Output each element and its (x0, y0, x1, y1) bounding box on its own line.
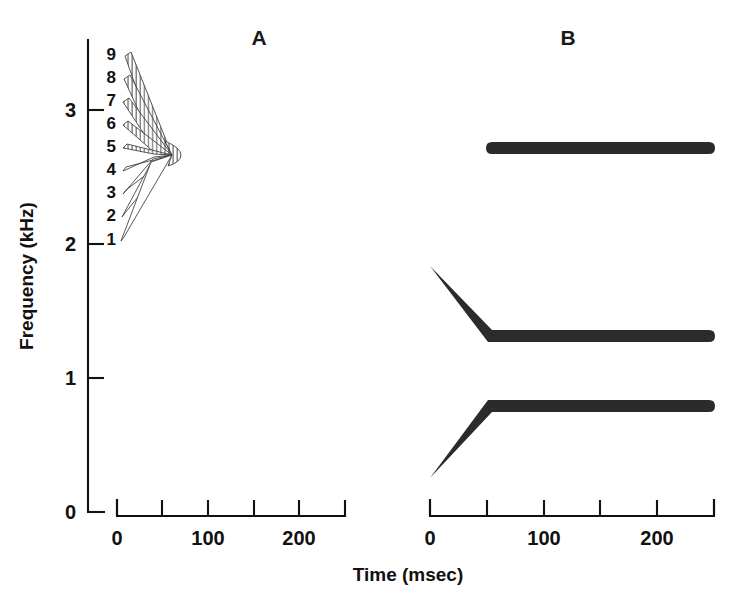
panel-b-x-ticks (430, 500, 714, 516)
y-tick-label-1: 1 (65, 367, 76, 389)
panel-a-fan: 9 8 7 6 5 4 3 2 1 (107, 45, 181, 249)
y-tick-label-3: 3 (65, 99, 76, 121)
panel-label-a: A (251, 26, 266, 49)
panel-b-x-label-0: 0 (424, 527, 435, 549)
formant-f3 (486, 142, 715, 154)
panel-b-x-label-100: 100 (527, 527, 560, 549)
panel-b-x-label-200: 200 (640, 527, 673, 549)
panel-a-x-axis-line (117, 500, 345, 516)
panel-a-x-ticks (117, 500, 345, 516)
y-tick-label-0: 0 (65, 501, 76, 523)
panel-b-x-tick-labels: 0 100 200 (424, 527, 673, 549)
fan-number-6: 6 (107, 114, 116, 133)
panel-label-b: B (560, 26, 575, 49)
y-tick-label-2: 2 (65, 233, 76, 255)
formant-f2 (430, 266, 715, 342)
panel-a-x-tick-labels: 0 100 200 (111, 527, 315, 549)
panel-a-x-label-0: 0 (111, 527, 122, 549)
fan-number-4: 4 (107, 160, 117, 179)
panel-b-x-axis: 0 100 200 (424, 500, 714, 549)
y-axis: 0 1 2 3 Frequency (kHz) (16, 40, 104, 523)
fan-number-2: 2 (107, 206, 116, 225)
fan-number-9: 9 (107, 45, 116, 64)
panel-a-x-label-200: 200 (282, 527, 315, 549)
panel-a-x-axis: 0 100 200 (111, 500, 345, 549)
panel-b-formants (430, 142, 715, 478)
fan-number-1: 1 (107, 230, 116, 249)
fan-number-7: 7 (107, 91, 116, 110)
fan-number-8: 8 (107, 68, 116, 87)
y-axis-ticks (88, 110, 104, 512)
y-axis-title: Frequency (kHz) (16, 202, 37, 350)
fan-number-3: 3 (107, 183, 116, 202)
y-axis-tick-labels: 0 1 2 3 (65, 99, 76, 523)
panel-b-x-axis-line (430, 500, 714, 516)
x-axis-title: Time (msec) (353, 564, 464, 585)
figure-canvas: 0 1 2 3 Frequency (kHz) 0 100 200 (0, 0, 747, 608)
fan-number-5: 5 (107, 137, 116, 156)
figure-root: 0 1 2 3 Frequency (kHz) 0 100 200 (0, 0, 747, 608)
panel-a-x-label-100: 100 (191, 527, 224, 549)
formant-f1 (430, 400, 715, 478)
